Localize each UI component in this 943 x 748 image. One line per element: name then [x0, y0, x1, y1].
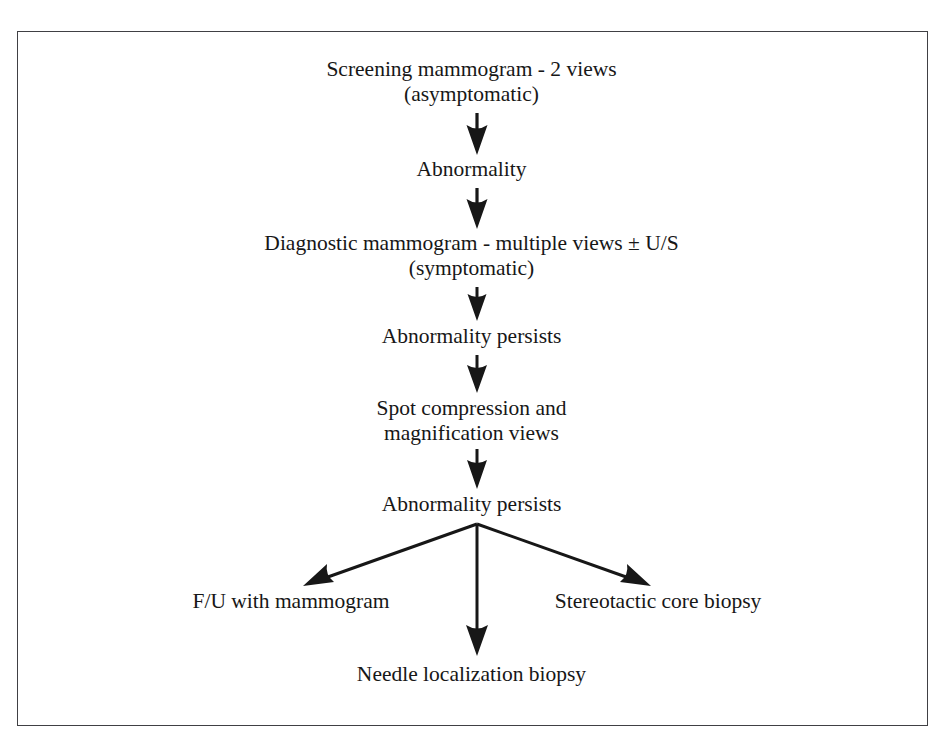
- node-spot-line-1: Spot compression and: [0, 396, 943, 421]
- node-needle-localization-biopsy: Needle localization biopsy: [0, 662, 943, 687]
- node-stereotactic-line-1: Stereotactic core biopsy: [508, 589, 808, 614]
- figure-frame-border: [17, 31, 928, 726]
- node-screening-line-2: (asymptomatic): [0, 82, 943, 107]
- node-abnormality-persists-2: Abnormality persists: [0, 492, 943, 517]
- node-persists-2-line-1: Abnormality persists: [0, 492, 943, 517]
- node-abnormality-line-1: Abnormality: [0, 157, 943, 182]
- node-abnormality: Abnormality: [0, 157, 943, 182]
- flowchart-diagram: Screening mammogram - 2 views (asymptoma…: [0, 0, 943, 748]
- node-abnormality-persists-1: Abnormality persists: [0, 324, 943, 349]
- node-stereotactic-biopsy: Stereotactic core biopsy: [508, 589, 808, 614]
- node-screening-mammogram: Screening mammogram - 2 views (asymptoma…: [0, 57, 943, 107]
- node-spot-compression: Spot compression and magnification views: [0, 396, 943, 446]
- node-screening-line-1: Screening mammogram - 2 views: [0, 57, 943, 82]
- node-followup-line-1: F/U with mammogram: [141, 589, 441, 614]
- node-needle-line-1: Needle localization biopsy: [0, 662, 943, 687]
- node-diagnostic-line-1: Diagnostic mammogram - multiple views ± …: [0, 231, 943, 256]
- node-diagnostic-line-2: (symptomatic): [0, 256, 943, 281]
- node-persists-1-line-1: Abnormality persists: [0, 324, 943, 349]
- node-diagnostic-mammogram: Diagnostic mammogram - multiple views ± …: [0, 231, 943, 281]
- node-followup-mammogram: F/U with mammogram: [141, 589, 441, 614]
- node-spot-line-2: magnification views: [0, 421, 943, 446]
